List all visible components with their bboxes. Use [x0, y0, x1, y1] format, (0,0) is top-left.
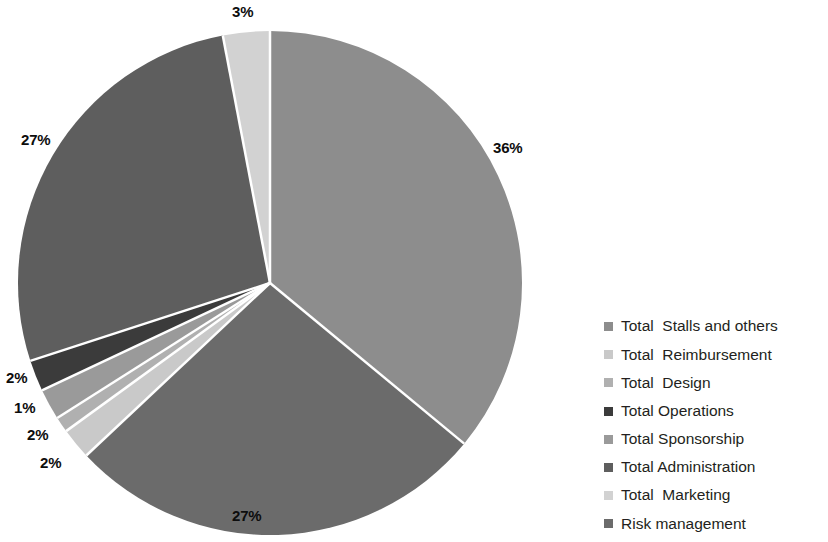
slice-label-marketing: 3% — [232, 4, 253, 19]
legend-item[interactable]: Total Reimbursement — [604, 340, 828, 368]
legend-swatch-icon — [604, 435, 613, 444]
pie-plot-area: 36% 27% 27% 3% 2% 1% 2% 2% — [0, 0, 600, 542]
slice-label-administration: 27% — [21, 132, 50, 147]
slice-label-reimbursement: 2% — [6, 370, 27, 385]
slice-label-stalls: 36% — [493, 140, 522, 155]
slice-label-risk-management: 27% — [232, 508, 261, 523]
legend-swatch-icon — [604, 322, 613, 331]
legend-swatch-icon — [604, 463, 613, 472]
legend-item[interactable]: Total Operations — [604, 397, 828, 425]
legend-item[interactable]: Total Sponsorship — [604, 425, 828, 453]
pie-svg — [0, 0, 600, 542]
legend-swatch-icon — [604, 491, 613, 500]
legend-item-label: Total Administration — [621, 459, 755, 475]
legend-item-label: Total Reimbursement — [621, 347, 772, 363]
legend-item[interactable]: Total Administration — [604, 453, 828, 481]
legend-item-label: Total Design — [621, 375, 711, 391]
legend-item[interactable]: Total Marketing — [604, 481, 828, 509]
legend-item[interactable]: Risk management — [604, 509, 828, 537]
legend-item-label: Total Operations — [621, 403, 734, 419]
chart-legend: Total Stalls and othersTotal Reimburseme… — [604, 312, 828, 538]
slice-label-design: 1% — [14, 400, 35, 415]
legend-item-label: Total Sponsorship — [621, 431, 744, 447]
legend-item-label: Total Stalls and others — [621, 318, 778, 334]
legend-swatch-icon — [604, 350, 613, 359]
legend-item-label: Total Marketing — [621, 487, 730, 503]
legend-item[interactable]: Total Design — [604, 368, 828, 396]
legend-item[interactable]: Total Stalls and others — [604, 312, 828, 340]
pie-chart-figure: 36% 27% 27% 3% 2% 1% 2% 2% Total Stalls … — [0, 0, 828, 542]
legend-swatch-icon — [604, 519, 613, 528]
legend-swatch-icon — [604, 407, 613, 416]
legend-swatch-icon — [604, 378, 613, 387]
legend-item-label: Risk management — [621, 516, 746, 532]
slice-label-sponsorship: 2% — [27, 427, 48, 442]
slice-label-operations: 2% — [40, 455, 61, 470]
